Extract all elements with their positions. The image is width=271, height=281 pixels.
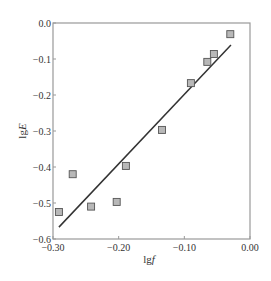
x-axis-label: lgf <box>143 253 157 265</box>
square-marker <box>227 31 234 38</box>
square-marker <box>69 171 76 178</box>
data-points <box>55 31 233 216</box>
x-tick-label: 0.00 <box>241 242 259 253</box>
square-marker <box>113 198 120 205</box>
x-tick-label: −0.20 <box>107 242 130 253</box>
y-axis-label: lgE <box>16 123 28 139</box>
scatter-chart: 0.0−0.1−0.2−0.3−0.4−0.5−0.6 −0.30−0.20−0… <box>0 0 271 281</box>
square-marker <box>159 126 166 133</box>
fit-line <box>59 45 231 227</box>
y-tick-label: 0.0 <box>39 18 52 29</box>
y-tick-label: −0.3 <box>33 126 51 137</box>
square-marker <box>204 58 211 65</box>
square-marker <box>55 209 62 216</box>
square-marker <box>210 50 217 57</box>
x-tick-label: −0.10 <box>173 242 196 253</box>
y-tick-label: −0.5 <box>33 198 51 209</box>
regression-line <box>59 45 231 227</box>
square-marker <box>187 80 194 87</box>
y-tick-label: −0.2 <box>33 90 51 101</box>
x-tick-label: −0.30 <box>41 242 64 253</box>
y-tick-label: −0.4 <box>33 162 51 173</box>
square-marker <box>122 162 129 169</box>
square-marker <box>88 203 95 210</box>
y-tick-label: −0.1 <box>33 54 51 65</box>
